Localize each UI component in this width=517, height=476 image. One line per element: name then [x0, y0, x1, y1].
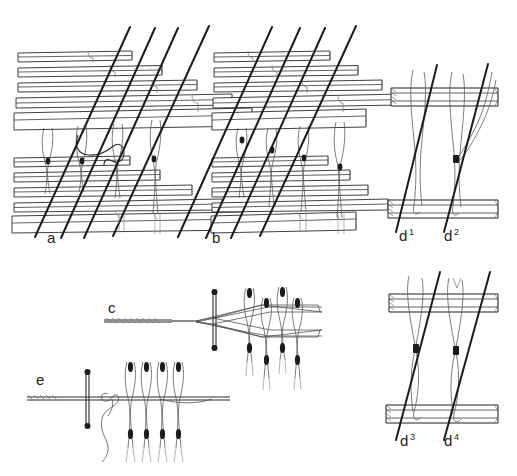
svg-text:3: 3 — [410, 432, 415, 442]
svg-text:d: d — [400, 432, 408, 449]
svg-text:d: d — [399, 227, 407, 244]
figure-d12-knot — [453, 155, 459, 163]
svg-text:d: d — [444, 227, 452, 244]
figure-label-a: a — [47, 229, 56, 246]
figure-d12-lower-beam — [388, 200, 498, 218]
svg-text:2: 2 — [454, 227, 459, 237]
figure-label-b: b — [212, 229, 220, 246]
illustration-plate: .bar { fill:#ffffff; stroke:#2a2a2a; str… — [0, 0, 517, 476]
svg-text:1: 1 — [409, 227, 414, 237]
plate-canvas: .bar { fill:#ffffff; stroke:#2a2a2a; str… — [0, 0, 517, 476]
svg-text:4: 4 — [454, 432, 459, 442]
figure-label-c: c — [108, 299, 116, 316]
figure-label-e: e — [36, 371, 44, 388]
svg-text:d: d — [444, 432, 452, 449]
